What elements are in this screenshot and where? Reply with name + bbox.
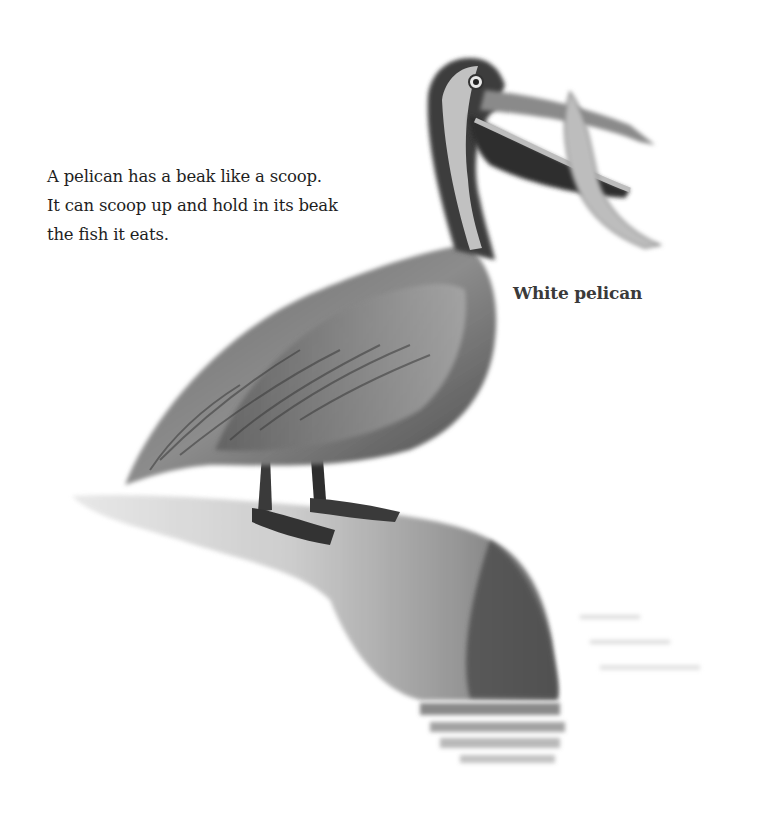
pelican-illustration: [0, 0, 767, 831]
pelican-body: [125, 245, 496, 485]
illustration-caption: White pelican: [513, 283, 642, 303]
body-text-line: the fish it eats.: [47, 220, 338, 249]
body-text-line: It can scoop up and hold in its beak: [47, 191, 338, 220]
body-text: A pelican has a beak like a scoop. It ca…: [47, 162, 338, 249]
book-page: A pelican has a beak like a scoop. It ca…: [0, 0, 767, 831]
fish: [565, 92, 660, 248]
body-text-line: A pelican has a beak like a scoop.: [47, 162, 338, 191]
